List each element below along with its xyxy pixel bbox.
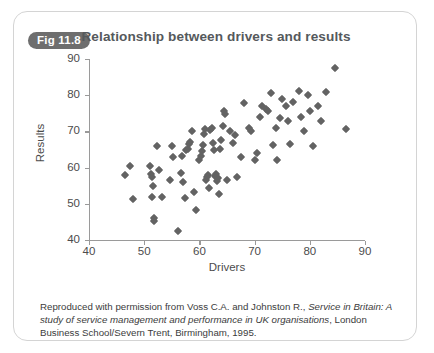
y-tick-label: 50: [58, 197, 80, 209]
scatter-point: [342, 124, 350, 132]
scatter-point: [250, 156, 258, 164]
scatter-point: [230, 131, 238, 139]
scatter-point: [317, 117, 325, 125]
scatter-point: [179, 178, 187, 186]
scatter-point: [158, 193, 166, 201]
scatter-point: [271, 124, 279, 132]
scatter-point: [153, 142, 161, 150]
scatter-point: [169, 152, 177, 160]
scatter-point: [149, 181, 157, 189]
scatter-point: [264, 107, 272, 115]
scatter-point: [217, 136, 225, 144]
scatter-point: [267, 88, 275, 96]
scatter-point: [181, 194, 189, 202]
x-tick-label: 80: [298, 245, 322, 257]
scatter-point: [218, 121, 226, 129]
scatter-point: [121, 171, 129, 179]
scatter-point: [174, 226, 182, 234]
scatter-point: [281, 102, 289, 110]
figure-panel: Fig 11.8 Relationship between drivers an…: [13, 11, 417, 341]
scatter-point: [286, 140, 294, 148]
scatter-point: [126, 162, 134, 170]
x-axis-title: Drivers: [89, 261, 365, 273]
scatter-point: [176, 169, 184, 177]
scatter-point: [205, 184, 213, 192]
x-tick-label: 40: [77, 245, 101, 257]
scatter-point: [228, 139, 236, 147]
y-tick-label: 80: [58, 88, 80, 100]
scatter-point: [306, 107, 314, 115]
scatter-point: [192, 206, 200, 214]
scatter-point: [256, 113, 264, 121]
scatter-point: [148, 193, 156, 201]
scatter-point: [331, 64, 339, 72]
scatter-point: [223, 175, 231, 183]
scatter-point: [283, 116, 291, 124]
scatter-point: [295, 87, 303, 95]
y-tick-label: 40: [58, 233, 80, 245]
y-tick-mark: [85, 95, 89, 96]
x-tick-label: 70: [243, 245, 267, 257]
y-tick-mark: [85, 168, 89, 169]
scatter-plot: 405060708090405060708090 Results Drivers: [14, 12, 417, 294]
scatter-point: [155, 166, 163, 174]
scatter-point: [269, 141, 277, 149]
y-axis-line: [89, 59, 90, 241]
y-tick-label: 90: [58, 52, 80, 64]
scatter-point: [129, 195, 137, 203]
scatter-point: [300, 126, 308, 134]
scatter-point: [168, 141, 176, 149]
y-tick-label: 60: [58, 161, 80, 173]
figure-caption: Reproduced with permission from Voss C.A…: [40, 300, 398, 340]
x-axis-line: [89, 240, 365, 241]
scatter-point: [297, 112, 305, 120]
scatter-point: [215, 189, 223, 197]
caption-text-1: Reproduced with permission from Voss C.A…: [40, 301, 308, 312]
y-tick-mark: [85, 204, 89, 205]
x-tick-label: 60: [187, 245, 211, 257]
scatter-point: [289, 97, 297, 105]
scatter-point: [187, 127, 195, 135]
x-tick-label: 90: [353, 245, 377, 257]
scatter-point: [309, 142, 317, 150]
scatter-point: [190, 188, 198, 196]
y-axis-title: Results: [34, 108, 46, 178]
scatter-point: [322, 87, 330, 95]
x-tick-label: 50: [132, 245, 156, 257]
scatter-point: [313, 102, 321, 110]
scatter-point: [165, 176, 173, 184]
scatter-point: [247, 127, 255, 135]
scatter-point: [216, 145, 224, 153]
scatter-point: [272, 156, 280, 164]
y-tick-label: 70: [58, 124, 80, 136]
scatter-point: [239, 99, 247, 107]
scatter-point: [303, 91, 311, 99]
scatter-point: [233, 172, 241, 180]
scatter-point: [237, 153, 245, 161]
y-tick-mark: [85, 59, 89, 60]
y-tick-mark: [85, 131, 89, 132]
